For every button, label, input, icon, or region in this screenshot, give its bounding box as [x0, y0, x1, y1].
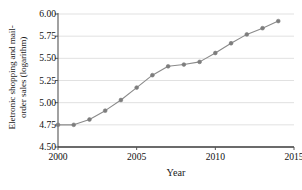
- x-tick-label: 2000: [38, 152, 78, 162]
- x-tick-label: 2015: [274, 152, 302, 162]
- x-axis-title: Year: [58, 167, 294, 178]
- x-axis-tick-labels: 2000200520102015: [0, 0, 302, 190]
- x-tick-label: 2005: [117, 152, 157, 162]
- x-tick-label: 2010: [195, 152, 235, 162]
- chart-figure: Eletronic shopping and mail- order sales…: [0, 0, 302, 190]
